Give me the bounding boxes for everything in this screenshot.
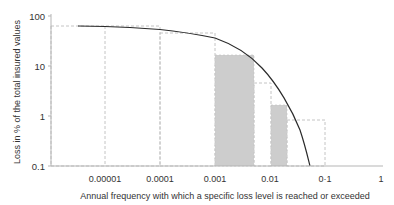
x-tick-0.01: 0.01 [261,174,279,184]
x-tick-1: 1 [378,174,383,184]
bar-1 [215,55,254,166]
bar-2 [271,105,287,166]
y-tick-1: 1 [40,111,45,122]
y-tick-0.1: 0.1 [32,161,45,172]
shaded-bars [215,55,287,166]
x-tick-0.0001: 0.0001 [146,174,174,184]
loss-frequency-chart: 100 10 1 0.1 0.00001 0.0001 0.001 0.01 0… [0,0,394,205]
y-tick-10: 10 [34,61,45,72]
x-tick-labels: 0.00001 0.0001 0.001 0.01 0·1 1 [89,174,384,184]
x-tick-0.1: 0·1 [318,174,331,184]
y-axis-label: Loss in % of the total insured values [12,19,22,164]
y-tick-labels: 100 10 1 0.1 [29,11,45,172]
dashed-box-3 [254,83,271,166]
dashed-box-2 [160,33,215,166]
x-tick-0.00001: 0.00001 [89,174,122,184]
x-tick-0.001: 0.001 [204,174,227,184]
y-tick-100: 100 [29,11,45,22]
dashed-box-4 [287,120,325,166]
x-axis-label: Annual frequency with which a specific l… [80,191,370,201]
